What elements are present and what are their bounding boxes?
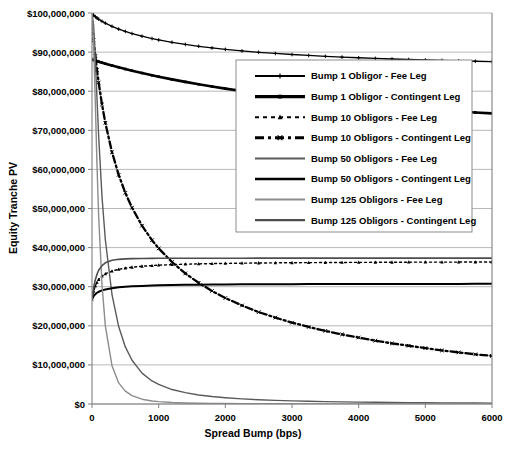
series-1-marker	[141, 72, 144, 75]
series-1-marker	[224, 87, 227, 90]
y-tick-label: $0	[74, 399, 85, 410]
x-tick-label: 1000	[148, 412, 169, 423]
x-tick-label: 6000	[481, 412, 502, 423]
y-tick-label: $30,000,000	[32, 281, 85, 292]
series-1-marker	[197, 83, 200, 86]
y-tick-label: $90,000,000	[32, 47, 85, 58]
series-1-marker	[124, 68, 127, 71]
legend-label-6: Bump 125 Obligors - Fee Leg	[311, 194, 443, 205]
x-axis-title: Spread Bump (bps)	[205, 427, 302, 439]
series-1-marker	[104, 62, 107, 65]
legend-border	[236, 60, 472, 232]
y-tick-label: $20,000,000	[32, 320, 85, 331]
series-1-marker	[111, 64, 114, 67]
legend-item-1[interactable]	[255, 95, 305, 99]
legend-marker-1	[278, 95, 282, 99]
chart-container: $0$10,000,000$20,000,000$30,000,000$40,0…	[0, 0, 506, 449]
y-axis-title: Equity Tranche PV	[7, 162, 19, 254]
legend-label-7: Bump 125 Obligors - Contingent Leg	[311, 215, 476, 226]
y-tick-label: $40,000,000	[32, 242, 85, 253]
x-tick-label: 3000	[281, 412, 302, 423]
x-tick-label: 0	[89, 412, 94, 423]
y-tick-label: $70,000,000	[32, 125, 85, 136]
y-tick-label: $60,000,000	[32, 164, 85, 175]
x-tick-label: 2000	[215, 412, 236, 423]
y-tick-label: $50,000,000	[32, 203, 85, 214]
y-tick-label: $100,000,000	[27, 8, 85, 19]
series-1-marker	[117, 66, 120, 69]
legend-label-5: Bump 50 Obligors - Contingent Leg	[311, 173, 471, 184]
chart-plot: $0$10,000,000$20,000,000$30,000,000$40,0…	[0, 0, 506, 449]
x-tick-label: 5000	[415, 412, 436, 423]
legend-label-1: Bump 1 Obligor - Contingent Leg	[311, 91, 461, 102]
series-1-marker	[171, 78, 174, 81]
y-tick-label: $10,000,000	[32, 359, 85, 370]
legend-label-2: Bump 10 Obligors - Fee Leg	[311, 112, 437, 123]
legend-label-0: Bump 1 Obligor - Fee Leg	[311, 70, 427, 81]
series-1-marker	[474, 111, 477, 114]
x-tick-label: 4000	[348, 412, 369, 423]
series-1-marker	[211, 85, 214, 88]
y-tick-label: $80,000,000	[32, 86, 85, 97]
series-1-marker	[184, 81, 187, 84]
series-1-marker	[97, 60, 100, 63]
series-1-marker	[157, 75, 160, 78]
series-1-marker	[151, 74, 154, 77]
chart-legend: Bump 1 Obligor - Fee LegBump 1 Obligor -…	[236, 60, 476, 232]
legend-label-3: Bump 10 Obligors - Contingent Leg	[311, 132, 471, 143]
legend-label-4: Bump 50 Obligors - Fee Leg	[311, 153, 437, 164]
series-1-marker	[131, 69, 134, 72]
series-1-marker	[101, 61, 104, 64]
